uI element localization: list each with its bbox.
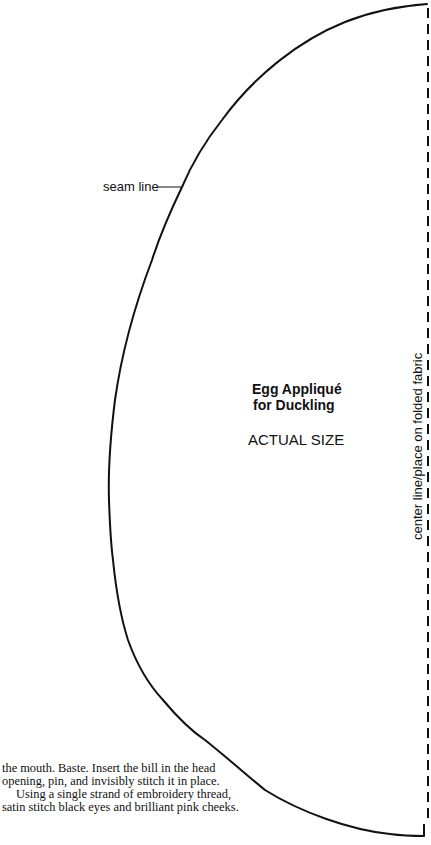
seam-line-label: seam line [103, 179, 159, 194]
pattern-title-line2: for Duckling [252, 397, 342, 413]
pattern-title: Egg Appliqué for Duckling [252, 381, 342, 413]
center-line-label: center line/place on folded fabric [411, 353, 425, 540]
egg-applique-pattern [0, 0, 431, 845]
instructions-paragraph-1: the mouth. Baste. Insert the bill in the… [2, 762, 242, 788]
instructions-paragraph-2: Using a single strand of embroidery thre… [2, 788, 242, 814]
pattern-title-line1: Egg Appliqué [252, 381, 342, 397]
seam-line-curve [109, 4, 427, 836]
actual-size-label: ACTUAL SIZE [248, 431, 344, 448]
instructions-text: the mouth. Baste. Insert the bill in the… [2, 762, 242, 814]
